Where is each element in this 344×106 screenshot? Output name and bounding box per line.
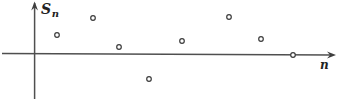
- x-axis: [2, 53, 333, 55]
- y-axis-label: Sn: [41, 2, 58, 16]
- data-point: [180, 39, 185, 44]
- data-point: [117, 45, 122, 50]
- data-point: [55, 33, 60, 38]
- data-point: [147, 77, 152, 82]
- y-axis-label-subscript: n: [52, 8, 59, 19]
- data-point: [259, 37, 264, 42]
- data-point: [91, 16, 96, 21]
- data-points: [55, 15, 296, 82]
- data-point: [291, 53, 296, 58]
- x-axis-label: n: [320, 59, 329, 71]
- y-axis-label-main: S: [41, 1, 51, 17]
- data-point: [227, 15, 232, 20]
- scatter-plot-figure: Sn n: [0, 0, 344, 106]
